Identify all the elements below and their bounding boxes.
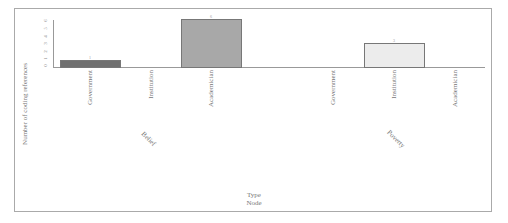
value-label: 3 [384,38,404,43]
category-label: Government [329,70,337,105]
bar-belief-academician [181,19,242,68]
y-tick: 6 [43,16,48,26]
chart-frame [14,8,492,212]
y-axis [53,20,54,67]
value-label: 6 [201,14,221,19]
category-label: Academician [451,70,459,107]
category-label: Institution [147,70,155,99]
value-label: 1 [80,55,100,60]
y-axis-label: Number of coding references [21,49,29,159]
x-axis-title-type: Type [0,191,508,199]
category-label: Academician [207,70,215,107]
category-label: Institution [390,70,398,99]
x-axis-title-node: Node [0,199,508,207]
bar-poverty-institution [364,43,425,68]
category-label: Government [86,70,94,105]
bar-belief-government [60,60,121,68]
